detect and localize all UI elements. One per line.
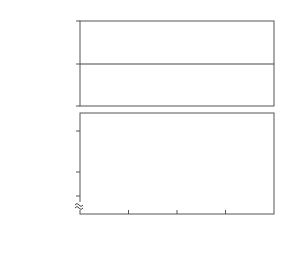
axis-break-icon <box>74 202 86 210</box>
bottom-plot-frame <box>80 113 274 214</box>
vertical-deflection-panel <box>74 113 274 214</box>
deflection-chart <box>0 0 295 263</box>
horizontal-deflection-panel <box>76 21 274 106</box>
